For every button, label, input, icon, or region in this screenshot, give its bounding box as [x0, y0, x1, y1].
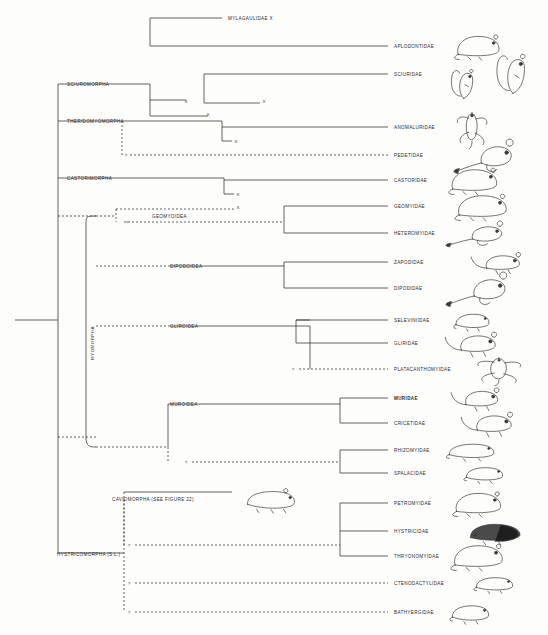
animal-illustration-petromyidae [450, 488, 506, 518]
extinct-marker-x-geomy-1: X [237, 205, 240, 210]
tip-label-petromyidae: PETROMYIDAE [394, 501, 431, 506]
extinct-marker-x-sciuro-3: X [207, 112, 210, 117]
animal-illustration-ctenodactylidae [472, 571, 516, 595]
uncertain-marker-q-geomyoidea: ? [126, 220, 128, 225]
tip-label-sciuridae: SCIURIDAE [394, 72, 422, 77]
tip-label-gliridae: GLIRIDAE [394, 341, 418, 346]
tip-label-pedetidae: PEDETIDAE [394, 153, 423, 158]
animal-illustration-rhizomyidae [444, 437, 498, 463]
animal-illustration-caviomorpha-guinea-pig [242, 485, 298, 515]
uncertain-marker-q-bathyerg: ? [128, 610, 130, 615]
extinct-marker-x-therido-1: X [235, 139, 238, 144]
tip-label-platacanthomyidae: PLATACANTHOMYIDAE [394, 367, 451, 372]
tip-label-ctenodactylidae: CTENODACTYLIDAE [394, 581, 444, 586]
clade-label-muroidea: MUROIDEA [170, 402, 198, 407]
uncertain-marker-q-rhizomy: ? [185, 460, 187, 465]
tip-label-rhizomyidae: RHIZOMYIDAE [394, 448, 430, 453]
tip-label-thryonomyidae: THRYONOMYIDAE [394, 554, 439, 559]
clade-label-gliroidea: GLIROIDEA [170, 324, 198, 329]
tip-label-geomyidae: GEOMYIDAE [394, 204, 425, 209]
tip-label-zapodidae: ZAPODIDAE [394, 260, 424, 265]
tip-label-aplodontidae: APLODONTIDAE [394, 44, 434, 49]
uncertain-marker-q-pedetidae: ? [125, 153, 127, 158]
tip-label-castoridae: CASTORIDAE [394, 178, 427, 183]
tip-label-cricetidae: CRICETIDAE [394, 421, 425, 426]
clade-label-theridomyomorpha: THERIDOMYOMORPHA [67, 119, 124, 124]
animal-illustration-thryonomyidae [448, 540, 508, 572]
animal-illustration-heteromyidae [444, 218, 512, 248]
animal-illustration-spalacidae [462, 461, 506, 485]
animal-illustration-cricetidae [460, 407, 518, 439]
phylogenetic-tree-figure: MYLAGAULIDAE XAPLODONTIDAESCIURIDAEANOMA… [0, 0, 548, 635]
vertical-label-myomorpha: MYOMORPHA [90, 326, 95, 360]
animal-illustration-platacanthomyidae [470, 352, 528, 386]
clade-label-dipodoidea: DIPODOIDEA [170, 264, 202, 269]
animal-illustration-squirrel-secondary [446, 67, 480, 101]
uncertain-marker-q-caviomorpha: ? [128, 543, 130, 548]
animal-illustration-bathyergidae [448, 598, 492, 626]
animal-illustration-sciuridae [490, 51, 534, 97]
tip-label-heteromyidae: HETEROMYIDAE [394, 231, 435, 236]
tip-label-anomaluridae: ANOMALURIDAE [394, 125, 435, 130]
extinct-marker-x-castor-1: X [237, 192, 240, 197]
clade-label-geomyoidea: GEOMYOIDEA [152, 214, 187, 219]
tip-label-dipodidae: DIPODIDAE [394, 286, 422, 291]
uncertain-marker-q-platacan: ? [292, 367, 294, 372]
animal-illustration-dipodidae [444, 268, 516, 308]
clade-label-castorimorpha: CASTORIMORPHA [67, 176, 112, 181]
tip-label-muridae: MURIDAE [394, 396, 418, 401]
uncertain-marker-q-ctenodact: ? [128, 581, 130, 586]
clade-label-hystricomorpha: HYSTRICOMORPHA (S.L.) [57, 552, 121, 557]
tip-label-bathyergidae: BATHYERGIDAE [394, 610, 434, 615]
tip-label-spalacidae: SPALACIDAE [394, 471, 426, 476]
clade-label-sciuromorpha: SCIUROMORPHA [67, 82, 109, 87]
tip-label-seleviniidae: SELEVINIIDAE [394, 318, 430, 323]
clade-label-caviomorpha: CAVIOMORPHA (SEE FIGURE 22) [112, 497, 194, 502]
tip-label-hystricidae: HYSTRICIDAE [394, 529, 429, 534]
tip-label-mylagaulidae: MYLAGAULIDAE X [228, 16, 273, 21]
extinct-marker-x-sciuro-1: X [185, 99, 188, 104]
extinct-marker-x-sciuro-2: X [263, 99, 266, 104]
